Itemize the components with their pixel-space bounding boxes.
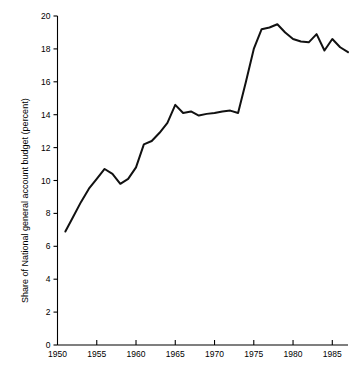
y-tick-label: 16: [41, 77, 51, 87]
y-tick-label: 12: [41, 143, 51, 153]
y-tick-label: 8: [46, 208, 51, 218]
y-tick-label: 2: [46, 307, 51, 317]
x-tick-label: 1985: [323, 349, 342, 359]
y-tick-label-group: 02468101214161820: [41, 11, 51, 350]
y-axis-title: Share of National general account budget…: [20, 98, 30, 303]
data-series-line: [65, 24, 348, 231]
y-tick-mark-group: [54, 16, 58, 345]
y-tick-label: 14: [41, 110, 51, 120]
x-tick-label: 1960: [127, 349, 146, 359]
y-tick-label: 18: [41, 44, 51, 54]
chart-container: Share of National general account budget…: [0, 0, 363, 377]
y-tick-label: 10: [41, 176, 51, 186]
x-tick-mark-group: [97, 340, 333, 345]
line-chart: Share of National general account budget…: [0, 0, 363, 377]
x-tick-label: 1965: [166, 349, 185, 359]
x-tick-label: 1955: [87, 349, 106, 359]
x-tick-label: 1950: [48, 349, 67, 359]
x-tick-label: 1975: [244, 349, 263, 359]
y-tick-label: 4: [46, 274, 51, 284]
y-tick-label: 20: [41, 11, 51, 21]
x-tick-label: 1980: [284, 349, 303, 359]
x-tick-label: 1970: [205, 349, 224, 359]
x-tick-label-group: 19501955196019651970197519801985: [48, 349, 342, 359]
y-axis-title-group: Share of National general account budget…: [20, 98, 30, 303]
y-tick-label: 6: [46, 241, 51, 251]
